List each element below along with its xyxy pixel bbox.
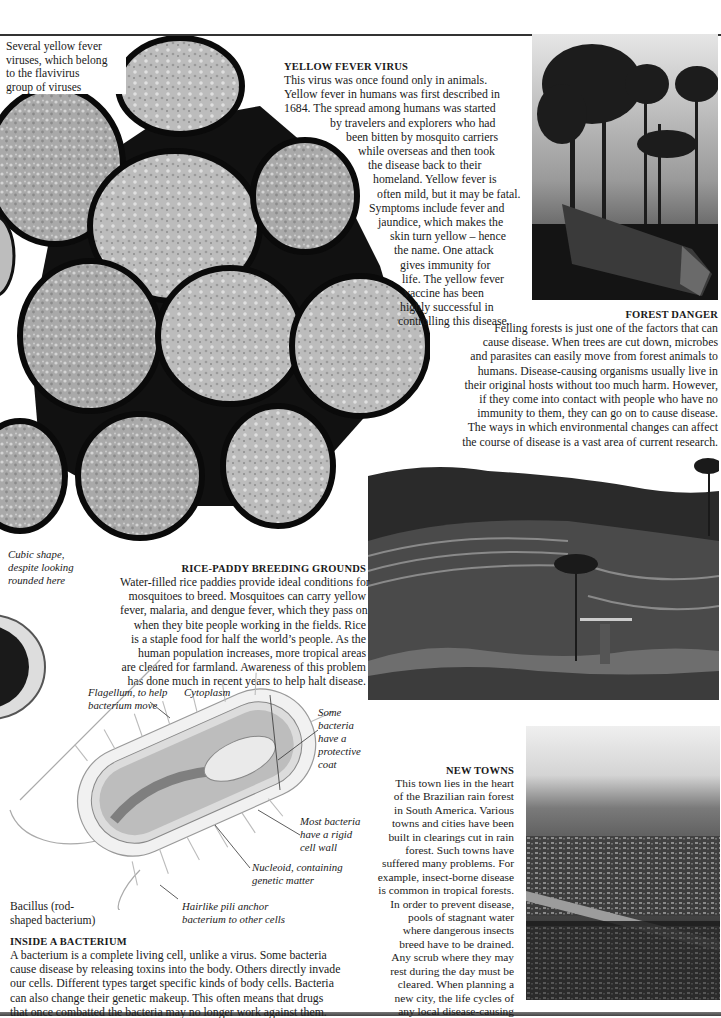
caption-line: group of viruses [6, 81, 126, 95]
body-line: vaccine has been [284, 286, 520, 300]
body-line: gives immunity for [284, 258, 520, 272]
annotation-line: Cubic shape, [8, 548, 88, 561]
body-line: A bacterium is a complete living cell, u… [10, 948, 355, 962]
rainforest-town-aerial-photo [526, 726, 720, 1000]
body-line: is common in tropical forests. [370, 884, 514, 897]
body-line: Felling forests is just one of the facto… [370, 321, 718, 335]
label-line: bacterium move [88, 699, 167, 712]
cubic-shape-annotation: Cubic shape, despite looking rounded her… [8, 548, 88, 587]
caption-line: to the flavivirus [6, 67, 126, 81]
body-line: The ways in which environmental changes … [370, 420, 718, 434]
label-line: Bacillus (rod- [10, 900, 95, 914]
rice-paddy-heading: RICE-PADDY BREEDING GROUNDS [120, 562, 366, 575]
caption-line: viruses, which belong [6, 54, 126, 68]
body-line: breed have to be drained. [370, 938, 514, 951]
body-line: been bitten by mosquito carriers [284, 130, 520, 144]
label-line: shaped bacterium) [10, 914, 95, 928]
body-line: of the Brazilian rain forest [370, 790, 514, 803]
body-line: pools of stagnant water [370, 911, 514, 924]
label-line: protective [318, 745, 361, 758]
body-line: life. The yellow fever [284, 272, 520, 286]
new-towns-section: NEW TOWNS This town lies in the heart of… [370, 764, 514, 1018]
label-line: Cytoplasm [184, 686, 230, 699]
body-line: skin turn yellow – hence [284, 229, 520, 243]
body-line: Any scrub where they may [370, 951, 514, 964]
label-line: Nucleoid, containing [252, 861, 343, 874]
label-line: bacterium to other cells [182, 913, 285, 926]
new-towns-heading: NEW TOWNS [370, 764, 514, 777]
body-line: Water-filled rice paddies provide ideal … [120, 575, 366, 589]
body-line: homeland. Yellow fever is [284, 172, 520, 186]
body-line: This virus was once found only in animal… [284, 73, 520, 87]
body-line: if they come into contact with people wh… [370, 392, 718, 406]
label-line: Hairlike pili anchor [182, 900, 285, 913]
annotation-line: despite looking [8, 561, 88, 574]
body-line: 1684. The spread among humans was starte… [284, 101, 520, 115]
body-line: the disease back to their [284, 158, 520, 172]
label-flagellum: Flagellum, to help bacterium move [88, 686, 167, 712]
body-line: In order to prevent disease, [370, 898, 514, 911]
body-line: immunity to them, they can go on to caus… [370, 406, 718, 420]
label-line: have a [318, 732, 361, 745]
caption-line: Several yellow fever [6, 40, 126, 54]
body-line: in South America. Various [370, 804, 514, 817]
body-line: jaundice, which makes the [284, 215, 520, 229]
body-line: suffered many problems. For [370, 857, 514, 870]
body-line: and parasites can easily move from fores… [370, 349, 718, 363]
felled-forest-photo [532, 34, 718, 300]
body-line: This town lies in the heart [370, 777, 514, 790]
label-line: genetic matter [252, 874, 343, 887]
annotation-line: rounded here [8, 574, 88, 587]
body-line: rest during the day must be [370, 965, 514, 978]
virus-caption: Several yellow fever viruses, which belo… [6, 40, 126, 94]
label-cytoplasm: Cytoplasm [184, 686, 230, 699]
body-line: example, insect-borne disease [370, 871, 514, 884]
yellow-fever-section: YELLOW FEVER VIRUS This virus was once f… [284, 60, 520, 329]
label-nucleoid: Nucleoid, containing genetic matter [252, 861, 343, 887]
body-line: our cells. Different types target specif… [10, 976, 355, 990]
body-line: mosquitoes to breed. Mosquitoes can carr… [120, 589, 366, 603]
body-line: Yellow fever in humans was first describ… [284, 87, 520, 101]
yellow-fever-heading: YELLOW FEVER VIRUS [284, 60, 520, 73]
label-cell-wall: Most bacteria have a rigid cell wall [300, 815, 360, 854]
body-line: cause disease. When trees are cut down, … [370, 335, 718, 349]
body-line: new city, the life cycles of [370, 992, 514, 1005]
label-line: Flagellum, to help [88, 686, 167, 699]
body-line: often mild, but it may be fatal. [284, 187, 520, 201]
body-line: while overseas and then took [284, 144, 520, 158]
rice-terraces-photo [368, 446, 719, 700]
body-line: that once combatted the bacteria may no … [10, 1005, 355, 1018]
label-protective-coat: Some bacteria have a protective coat [318, 706, 361, 771]
label-line: coat [318, 758, 361, 771]
body-line: the name. One attack [284, 243, 520, 257]
body-line: their original hosts without too much ha… [370, 378, 718, 392]
label-line: Most bacteria [300, 815, 360, 828]
body-line: Symptoms include fever and [284, 201, 520, 215]
body-line: cause disease by releasing toxins into t… [10, 962, 355, 976]
body-line: humans. Disease-causing organisms usuall… [370, 364, 718, 378]
label-line: cell wall [300, 841, 360, 854]
label-line: Some [318, 706, 361, 719]
label-line: bacteria [318, 719, 361, 732]
body-line: towns and cities have been [370, 817, 514, 830]
body-line: forest. Such towns have [370, 844, 514, 857]
body-line: any local disease-causing [370, 1005, 514, 1018]
forest-danger-heading: FOREST DANGER [370, 308, 718, 321]
body-line: by travelers and explorers who had [284, 116, 520, 130]
body-line: where dangerous insects [370, 924, 514, 937]
body-line: cleared. When planning a [370, 978, 514, 991]
body-line: built in clearings cut in rain [370, 831, 514, 844]
inside-bacterium-section: INSIDE A BACTERIUM A bacterium is a comp… [10, 935, 355, 1018]
label-bacillus: Bacillus (rod- shaped bacterium) [10, 900, 95, 927]
label-pili: Hairlike pili anchor bacterium to other … [182, 900, 285, 926]
inside-bacterium-heading: INSIDE A BACTERIUM [10, 935, 355, 948]
label-line: have a rigid [300, 828, 360, 841]
forest-danger-section: FOREST DANGER Felling forests is just on… [370, 308, 718, 449]
body-line: can also change their genetic makeup. Th… [10, 991, 355, 1005]
